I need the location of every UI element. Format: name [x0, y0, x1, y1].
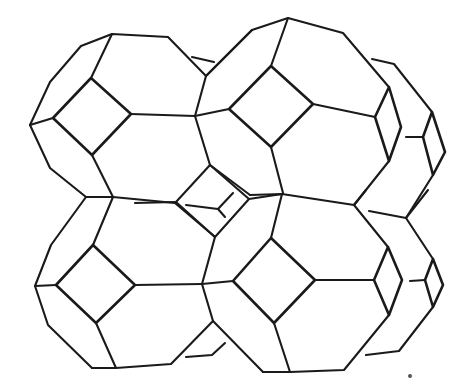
framework-diagram: Sodalite-type framework of truncated oct… [0, 0, 476, 392]
framework-drawing [0, 0, 476, 392]
cage-bottom-left [35, 197, 233, 368]
ink-speck [408, 374, 412, 378]
cage-bottom-right [213, 190, 402, 372]
cage-top-right [195, 18, 401, 205]
